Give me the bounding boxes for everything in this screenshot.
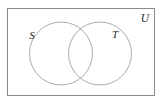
set-t-label: T bbox=[112, 28, 119, 40]
universal-set-label: U bbox=[141, 12, 150, 24]
venn-diagram-canvas: S T U bbox=[0, 0, 162, 104]
set-s-label: S bbox=[29, 29, 35, 41]
venn-diagram-svg: S T U bbox=[0, 0, 162, 104]
